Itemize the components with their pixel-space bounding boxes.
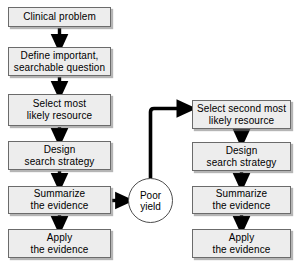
node-apply-evidence-left: Apply the evidence — [8, 229, 111, 258]
node-clinical-problem: Clinical problem — [8, 7, 111, 27]
node-select-most-likely-resource: Select most likely resource — [8, 94, 111, 126]
flowchart-diagram: Clinical problem Define important, searc… — [0, 0, 298, 270]
node-line: Design — [44, 144, 76, 156]
node-design-search-strategy-left: Design search strategy — [8, 141, 111, 170]
node-apply-evidence-right: Apply the evidence — [192, 229, 291, 258]
node-line: Clinical problem — [23, 11, 96, 23]
node-line: the evidence — [31, 200, 89, 212]
node-line: Define important, — [21, 50, 99, 62]
connector-poor-yield-to-select-second — [151, 109, 189, 179]
node-design-search-strategy-right: Design search strategy — [192, 142, 291, 171]
node-summarize-evidence-right: Summarize the evidence — [192, 186, 291, 214]
node-line: Poor — [140, 190, 161, 201]
node-line: Design — [226, 145, 258, 157]
node-line: the evidence — [31, 244, 89, 256]
node-line: search strategy — [207, 157, 277, 169]
node-line: Select second most — [197, 103, 286, 115]
node-line: the evidence — [213, 200, 271, 212]
node-line: search strategy — [25, 156, 95, 168]
node-line: Apply — [229, 232, 255, 244]
node-line: likely resource — [209, 115, 274, 127]
node-summarize-evidence-left: Summarize the evidence — [8, 186, 111, 214]
node-line: likely resource — [27, 110, 92, 122]
node-line: searchable question — [14, 62, 105, 74]
node-line: yield — [140, 201, 161, 212]
node-poor-yield: Poor yield — [128, 178, 173, 223]
node-line: Summarize — [216, 188, 267, 200]
node-define-question: Define important, searchable question — [8, 47, 111, 76]
node-select-second-most-likely-resource: Select second most likely resource — [192, 100, 291, 129]
node-line: Apply — [47, 232, 73, 244]
node-line: Select most — [33, 98, 86, 110]
node-line: the evidence — [213, 244, 271, 256]
node-line: Summarize — [34, 188, 85, 200]
